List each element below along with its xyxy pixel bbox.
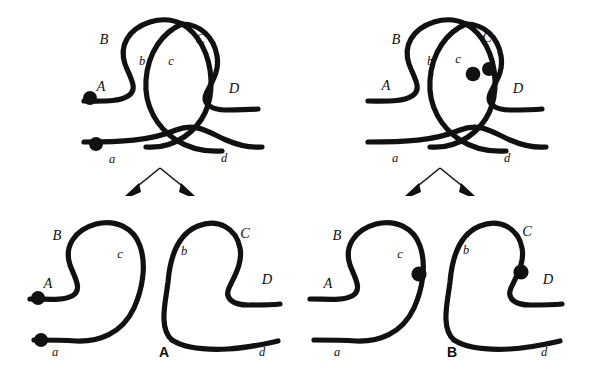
- label-B-parent-A: A: [381, 77, 391, 93]
- node-dot-B-parent-C: [482, 62, 496, 76]
- label-B-childR-b: b: [463, 243, 469, 257]
- label-A-parent-B: B: [100, 31, 109, 47]
- label-A-childL-B: B: [53, 227, 62, 243]
- arrow-B-right-head: [459, 183, 475, 196]
- diagram-svg: B C b c A D a d B c A a b C D d A: [0, 0, 591, 382]
- panel-A-child-left-group: B c A a: [30, 223, 143, 359]
- panel-label-A: A: [159, 344, 169, 360]
- label-A-childL-A: A: [43, 275, 53, 291]
- label-A-parent-b: b: [139, 54, 145, 68]
- label-A-parent-d: d: [221, 151, 228, 165]
- label-A-parent-A: A: [96, 78, 106, 94]
- label-B-childL-B: B: [333, 227, 342, 243]
- label-B-parent-b: b: [427, 54, 433, 68]
- node-dot-A-child-left-1: [31, 291, 45, 305]
- panel-A-arrows: [125, 168, 195, 196]
- node-dot-B-child-right: [513, 264, 528, 279]
- label-B-childR-d: d: [541, 345, 548, 359]
- arrow-B-left-head: [405, 183, 421, 196]
- label-B-parent-C: C: [482, 29, 492, 45]
- label-A-parent-a: a: [109, 152, 115, 166]
- arrow-A-right-head: [179, 183, 195, 196]
- node-dot-A-parent-1: [83, 91, 97, 105]
- panel-label-B: B: [447, 344, 457, 360]
- panel-A-parent-group: B C b c A D a d: [83, 20, 262, 166]
- label-B-childR-C: C: [522, 223, 532, 239]
- arrow-A-left-head: [125, 183, 141, 196]
- node-dot-A-child-left-2: [34, 333, 48, 347]
- label-B-childL-c: c: [397, 247, 403, 261]
- label-B-childL-a: a: [334, 345, 340, 359]
- panel-B-child-right-group: b C D d: [446, 223, 562, 359]
- label-B-childL-A: A: [323, 275, 333, 291]
- label-B-childR-D: D: [542, 271, 554, 287]
- label-A-childR-d: d: [259, 345, 266, 359]
- label-B-parent-d: d: [504, 151, 511, 165]
- label-A-parent-D: D: [228, 80, 240, 96]
- label-A-childL-a: a: [52, 345, 58, 359]
- label-A-childR-b: b: [181, 244, 187, 258]
- label-B-parent-B: B: [392, 31, 401, 47]
- label-A-childR-C: C: [240, 225, 250, 241]
- panel-B-arrows: [405, 168, 475, 196]
- panel-B-parent-group: B C b c A D a d: [368, 20, 546, 165]
- label-A-parent-c: c: [168, 54, 174, 68]
- node-dot-A-parent-2: [89, 137, 103, 151]
- panel-A-child-right-group: b C D d: [164, 223, 280, 359]
- node-dot-B-parent-c: [466, 67, 481, 82]
- node-dot-B-child-left: [411, 266, 426, 281]
- label-A-childR-D: D: [261, 271, 273, 287]
- label-B-parent-a: a: [392, 151, 398, 165]
- label-B-parent-c: c: [455, 52, 461, 66]
- label-A-childL-c: c: [117, 247, 123, 261]
- figure-canvas: B C b c A D a d B c A a b C D d A: [0, 0, 591, 382]
- panel-B-child-left-group: B c A a: [310, 223, 427, 359]
- label-B-parent-D: D: [512, 80, 524, 96]
- label-A-parent-C: C: [195, 31, 205, 47]
